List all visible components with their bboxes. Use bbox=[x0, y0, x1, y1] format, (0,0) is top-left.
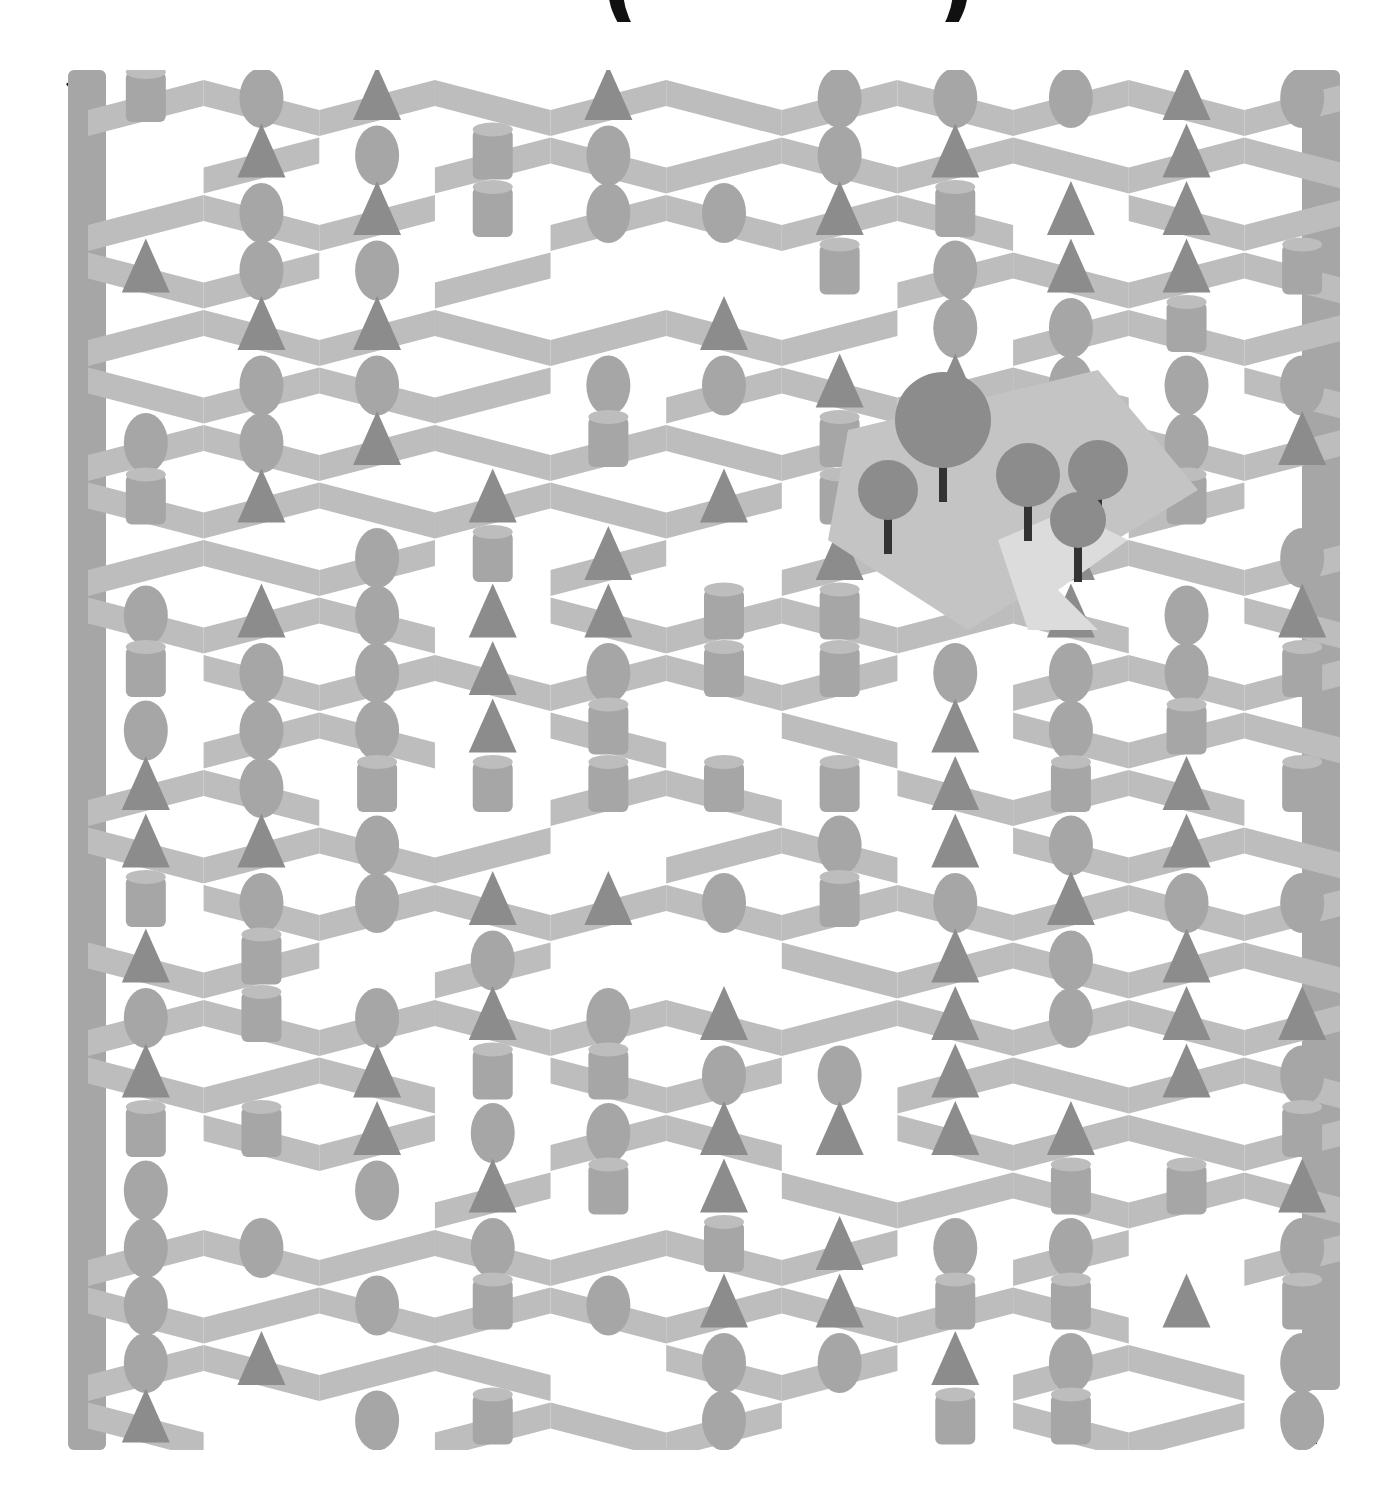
title-paren-left: ( bbox=[600, 0, 641, 22]
maze-board bbox=[68, 70, 1340, 1450]
title-fragment: ( ) bbox=[0, 0, 1397, 22]
maze-walls bbox=[68, 70, 1340, 1450]
title-paren-right: ) bbox=[935, 0, 976, 22]
